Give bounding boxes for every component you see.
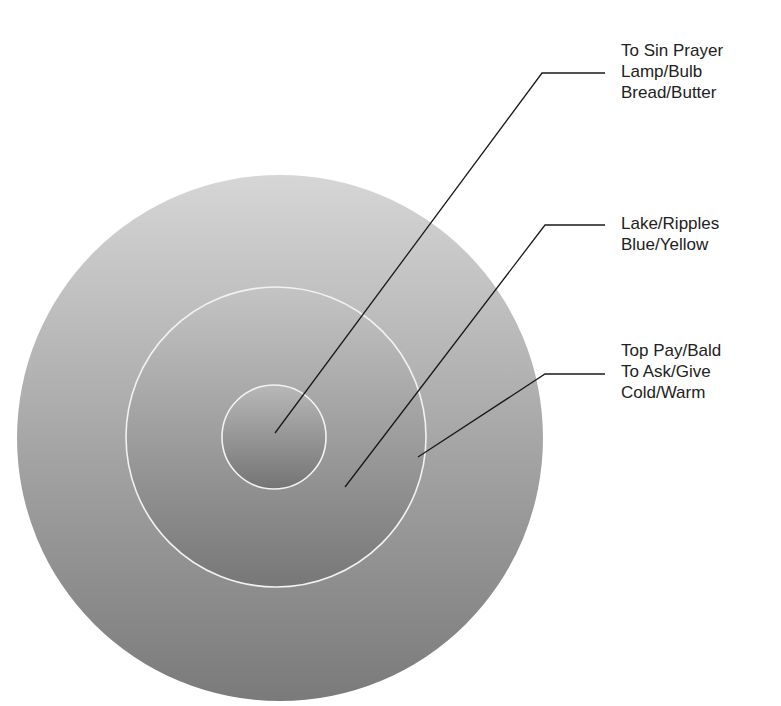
label-line: Blue/Yellow xyxy=(621,234,719,255)
inner-circle xyxy=(222,385,326,489)
label-line: Lamp/Bulb xyxy=(621,61,723,82)
label-middle: Lake/Ripples Blue/Yellow xyxy=(621,213,719,255)
label-line: Cold/Warm xyxy=(621,382,721,403)
label-line: To Sin Prayer xyxy=(621,40,723,61)
label-inner: To Sin Prayer Lamp/Bulb Bread/Butter xyxy=(621,40,723,103)
label-line: Lake/Ripples xyxy=(621,213,719,234)
label-line: To Ask/Give xyxy=(621,361,721,382)
label-line: Top Pay/Bald xyxy=(621,340,721,361)
label-outer: Top Pay/Bald To Ask/Give Cold/Warm xyxy=(621,340,721,403)
label-line: Bread/Butter xyxy=(621,82,723,103)
